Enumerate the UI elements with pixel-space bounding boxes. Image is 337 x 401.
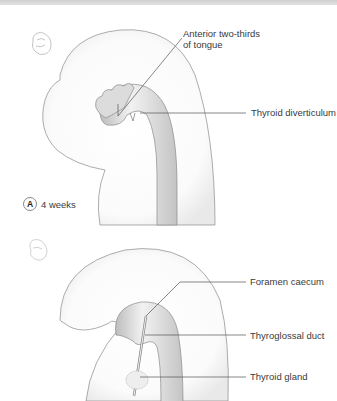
embryo-thumbnail-icon xyxy=(30,240,47,261)
panel-a-drawing xyxy=(32,30,246,225)
label-anterior-tongue-line1: Anterior two-thirds xyxy=(183,28,260,39)
panel-b-drawing xyxy=(30,240,246,401)
label-thyroid-diverticulum: Thyroid diverticulum xyxy=(251,107,336,118)
label-thyroid-gland: Thyroid gland xyxy=(250,371,308,382)
panel-a-age: 4 weeks xyxy=(41,199,76,210)
embryo-thumbnail-icon xyxy=(32,32,51,54)
label-anterior-tongue-line2: of tongue xyxy=(183,39,223,50)
panel-a-caption: A 4 weeks xyxy=(23,197,76,211)
panel-a-letter: A xyxy=(23,197,37,211)
label-thyroglossal-duct: Thyroglossal duct xyxy=(250,330,324,341)
label-foramen-caecum: Foramen caecum xyxy=(250,276,324,287)
